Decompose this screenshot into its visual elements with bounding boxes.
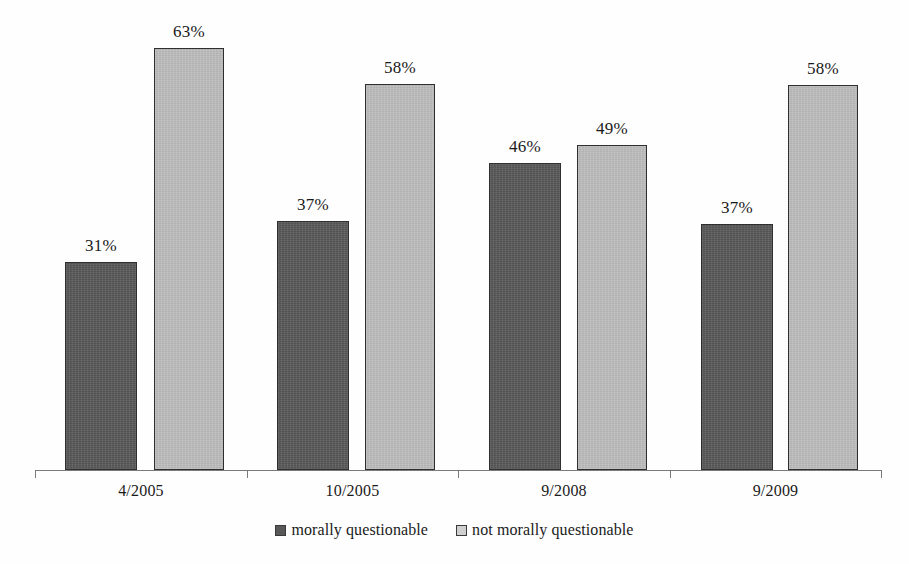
bar-not-morally-questionable-10-2005 <box>365 84 435 470</box>
bar-value-label: 58% <box>365 58 435 78</box>
x-axis-category-label-9-2009: 9/2009 <box>670 482 881 500</box>
bar-morally-questionable-10-2005 <box>277 221 349 470</box>
bar-value-label: 63% <box>154 22 224 42</box>
bar-value-label: 46% <box>489 137 561 157</box>
bar-value-label: 31% <box>65 236 137 256</box>
legend-item-morally-questionable[interactable]: morally questionable <box>275 521 428 539</box>
legend-swatch-light-icon <box>456 525 467 536</box>
bar-value-label: 49% <box>577 119 647 139</box>
x-axis-tick-end <box>881 470 882 478</box>
bar-morally-questionable-4-2005 <box>65 262 137 470</box>
bar-value-label: 37% <box>277 195 349 215</box>
x-axis-tick-1 <box>247 470 248 478</box>
bar-morally-questionable-9-2009 <box>701 224 773 470</box>
bar-not-morally-questionable-4-2005 <box>154 48 224 470</box>
bar-not-morally-questionable-9-2008 <box>577 145 647 470</box>
bar-value-label: 37% <box>701 198 773 218</box>
legend-swatch-dark-icon <box>275 525 286 536</box>
x-axis-category-label-4-2005: 4/2005 <box>35 482 247 500</box>
x-axis-tick-3 <box>670 470 671 478</box>
x-axis-tick-2 <box>458 470 459 478</box>
bar-value-label: 58% <box>788 59 858 79</box>
x-axis-tick-start <box>35 470 36 478</box>
bar-not-morally-questionable-9-2009 <box>788 85 858 470</box>
x-axis-category-label-10-2005: 10/2005 <box>247 482 458 500</box>
legend-label: morally questionable <box>291 521 428 539</box>
plot-area: 31% 63% 37% 58% 46% 49% 37% 58% <box>0 0 909 472</box>
bar-chart: 31% 63% 37% 58% 46% 49% 37% 58% 4/2005 1… <box>0 0 909 564</box>
x-axis-category-label-9-2008: 9/2008 <box>458 482 670 500</box>
chart-legend: morally questionable not morally questio… <box>0 521 909 539</box>
bar-morally-questionable-9-2008 <box>489 163 561 470</box>
legend-item-not-morally-questionable[interactable]: not morally questionable <box>456 521 633 539</box>
legend-label: not morally questionable <box>472 521 633 539</box>
